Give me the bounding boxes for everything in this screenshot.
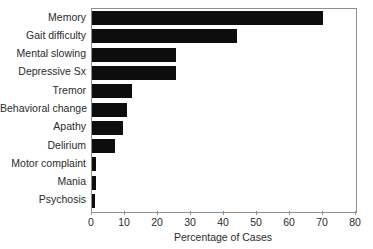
x-axis-tick-mark <box>256 211 257 215</box>
x-axis-tick-mark <box>355 211 356 215</box>
x-axis-tick-label: 0 <box>88 216 94 228</box>
x-axis-tick-mark <box>190 211 191 215</box>
x-axis-tick-label: 10 <box>118 216 130 228</box>
bar <box>92 139 115 153</box>
y-axis-tick-label: Mania <box>0 176 86 187</box>
y-axis-tick-label: Tremor <box>0 85 86 96</box>
y-axis-tick-label: Depressive Sx <box>0 66 86 77</box>
bar <box>92 157 96 171</box>
y-axis-tick-label: Delirium <box>0 140 86 151</box>
x-axis-tick-label: 40 <box>217 216 229 228</box>
x-axis-tick-mark <box>289 211 290 215</box>
bar <box>92 176 96 190</box>
y-axis-tick-label: Gait difficulty <box>0 30 86 41</box>
bar <box>92 194 95 208</box>
y-axis-tick-label: Motor complaint <box>0 158 86 169</box>
y-axis-tick-label: Apathy <box>0 121 86 132</box>
bar <box>92 11 323 25</box>
x-axis-tick-label: 80 <box>349 216 361 228</box>
x-axis-tick-mark <box>223 211 224 215</box>
bar <box>92 29 237 43</box>
y-axis-tick-label: Memory <box>0 12 86 23</box>
x-axis-tick-mark <box>124 211 125 215</box>
bar-chart-figure: MemoryGait difficultyMental slowingDepre… <box>0 0 373 249</box>
y-axis-category-labels: MemoryGait difficultyMental slowingDepre… <box>0 8 86 211</box>
x-axis-tick-mark <box>157 211 158 215</box>
x-axis-title: Percentage of Cases <box>91 231 355 243</box>
bar <box>92 121 123 135</box>
x-axis-tick-mark <box>322 211 323 215</box>
bar <box>92 66 176 80</box>
bar <box>92 103 127 117</box>
y-axis-tick-label: Behavioral change <box>0 103 86 114</box>
bar <box>92 84 132 98</box>
x-axis-tick-label: 50 <box>250 216 262 228</box>
bars-layer <box>92 9 356 210</box>
x-axis-tick-label: 70 <box>316 216 328 228</box>
x-axis-tick-mark <box>91 211 92 215</box>
x-axis-tick-label: 60 <box>283 216 295 228</box>
bar <box>92 48 176 62</box>
x-axis-tick-label: 30 <box>184 216 196 228</box>
y-axis-tick-label: Psychosis <box>0 194 86 205</box>
y-axis-tick-label: Mental slowing <box>0 48 86 59</box>
x-axis-tick-label: 20 <box>151 216 163 228</box>
